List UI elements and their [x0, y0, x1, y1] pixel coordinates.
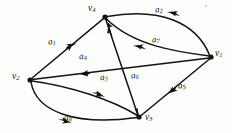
edge-paths: [31, 13, 210, 122]
node-dot-v2[interactable]: [27, 77, 32, 82]
edge-label-a3: a3: [100, 73, 109, 84]
edge-label-a6: a6: [131, 71, 140, 82]
node-dot-v4[interactable]: [102, 14, 107, 19]
arrowhead-a2: [167, 11, 180, 16]
graph-canvas: [0, 0, 232, 133]
edge-path-a8: [31, 82, 137, 120]
edge-label-a5: a5: [178, 81, 187, 92]
edge-label-a1: a1: [48, 37, 57, 48]
edge-path-a4: [32, 58, 210, 80]
edge-path-a3: [32, 81, 138, 116]
edge-label-a4: a4: [79, 52, 88, 63]
arrowhead-a7: [133, 45, 146, 50]
edge-label-a8: a8: [64, 113, 72, 123]
node-dot-v3[interactable]: [136, 114, 141, 119]
edge-label-a2: a2: [155, 5, 164, 16]
scan-speck: [205, 5, 207, 7]
edge-label-a7: a7: [152, 35, 161, 46]
node-label-v1: v1: [215, 49, 222, 59]
node-label-v4: v4: [88, 4, 95, 14]
edge-arrowheads: [58, 11, 180, 123]
node-label-v3: v3: [145, 113, 152, 123]
node-dot-v1[interactable]: [208, 54, 213, 59]
node-label-v2: v2: [12, 72, 19, 82]
graph-figure: v4 v1 v2 v3 a1 a2 a3 a4 a5 a6 a7 a8: [0, 0, 232, 133]
